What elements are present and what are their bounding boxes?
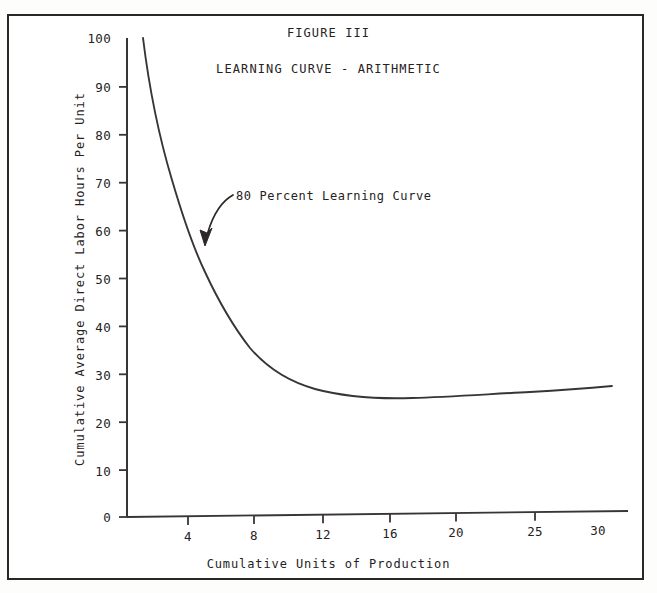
x-tick-label-30: 30 <box>585 523 611 538</box>
x-tick-label-8: 8 <box>241 528 267 543</box>
y-tick-label-70: 70 <box>77 176 111 191</box>
annotation-arrow-shaft <box>208 195 233 232</box>
x-tick-label-4: 4 <box>175 529 201 544</box>
y-axis-ticks <box>119 87 127 517</box>
y-tick-label-80: 80 <box>77 128 111 143</box>
x-tick-label-12: 12 <box>310 527 336 542</box>
figure-root: FIGURE III LEARNING CURVE - ARITHMETIC 8… <box>0 0 657 593</box>
y-tick-label-100: 100 <box>77 31 111 46</box>
x-axis-title: Cumulative Units of Production <box>0 557 657 571</box>
annotation-arrow-head <box>200 228 212 246</box>
y-tick-label-0: 0 <box>77 510 111 525</box>
y-tick-label-30: 30 <box>77 368 111 383</box>
y-tick-label-60: 60 <box>77 224 111 239</box>
y-tick-label-40: 40 <box>77 320 111 335</box>
annotation-label: 80 Percent Learning Curve <box>236 189 432 203</box>
y-tick-label-90: 90 <box>77 80 111 95</box>
y-tick-label-50: 50 <box>77 272 111 287</box>
figure-subtitle: LEARNING CURVE - ARITHMETIC <box>0 62 657 76</box>
x-tick-label-25: 25 <box>522 524 548 539</box>
y-tick-label-20: 20 <box>77 416 111 431</box>
y-tick-label-10: 10 <box>77 464 111 479</box>
x-axis-line <box>127 511 628 517</box>
x-tick-label-16: 16 <box>377 526 403 541</box>
x-tick-label-20: 20 <box>443 525 469 540</box>
